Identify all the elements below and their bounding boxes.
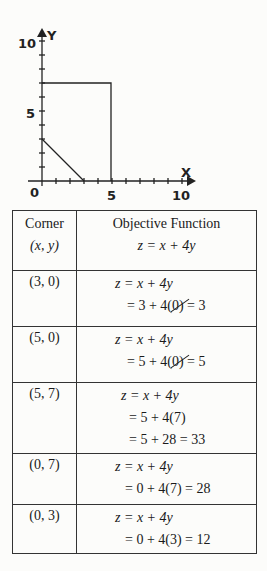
rect-boundary [42,83,111,181]
diagonal-boundary [42,139,84,181]
x-tick-5: 5 [107,188,116,203]
calc-line: = 5 + 4(7) [77,408,256,430]
formula-line: z = x + 4y [77,508,256,530]
header-formula: z = x + 4y [77,236,256,258]
header-xy: (x, y) [13,236,76,258]
calc-line: = 5 + 28 = 33 [77,430,256,452]
table-row: (5, 0) z = x + 4y = 5 + 4(0) = 5 [13,326,256,382]
x-axis-label: X [181,165,191,180]
header-corner: Corner [13,214,76,236]
formula-line: z = x + 4y [77,330,256,352]
table-header: Corner (x, y) Objective Function z = x +… [13,211,256,270]
corner-cell: (0, 7) [13,454,77,504]
corner-cell: (0, 3) [13,505,77,553]
y-tick-10: 10 [18,36,36,51]
calc-line: = 0 + 4(7) = 28 [77,479,256,501]
x-tick-0: 0 [30,185,39,200]
formula-line: z = x + 4y [77,274,256,296]
corner-cell: (5, 7) [13,383,77,453]
feasible-region-graph: Y X 10 5 0 5 10 [0,0,267,205]
y-tick-5: 5 [26,106,35,121]
y-axis-label: Y [46,28,57,43]
table-row: (0, 3) z = x + 4y = 0 + 4(3) = 12 [13,504,256,553]
corner-table: Corner (x, y) Objective Function z = x +… [12,210,257,554]
x-tick-10: 10 [172,188,190,203]
formula-line: z = x + 4y [77,457,256,479]
table-row: (5, 7) z = x + 4y = 5 + 4(7) = 5 + 28 = … [13,382,256,453]
corner-cell: (3, 0) [13,271,77,326]
table-row: (0, 7) z = x + 4y = 0 + 4(7) = 28 [13,453,256,504]
y-axis-arrow-icon [37,28,47,37]
formula-line: z = x + 4y [77,386,256,408]
table-row: (3, 0) z = x + 4y = 3 + 4(0) = 3 [13,270,256,326]
calc-line: = 3 + 4(0) = 3 [77,296,256,318]
corner-cell: (5, 0) [13,327,77,382]
calc-line: = 5 + 4(0) = 5 [77,352,256,374]
header-objective: Objective Function [77,214,256,236]
calc-line: = 0 + 4(3) = 12 [77,530,256,552]
